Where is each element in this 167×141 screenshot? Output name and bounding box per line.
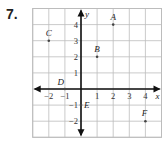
y-tick-label: −2 — [69, 116, 78, 126]
y-tick-label: −1 — [69, 100, 78, 110]
x-tick-label: 2 — [111, 91, 115, 101]
point-c — [48, 39, 51, 42]
y-tick-label: 1 — [74, 68, 78, 78]
x-tick-label: 3 — [127, 91, 131, 101]
point-label-d: D — [56, 77, 64, 87]
point-label-b: B — [94, 44, 100, 54]
y-axis-label: y — [84, 9, 89, 19]
point-label-f: F — [141, 108, 148, 118]
point-f — [144, 120, 147, 123]
point-e — [80, 104, 83, 107]
coordinate-grid: xy−2−112344321−1−2ABCDEF — [0, 0, 167, 141]
x-tick-label: −2 — [44, 91, 53, 101]
x-tick-label: 1 — [95, 91, 99, 101]
point-a — [112, 23, 115, 26]
point-label-e: E — [83, 100, 90, 110]
x-tick-label: 4 — [143, 91, 148, 101]
y-tick-label: 3 — [74, 36, 78, 46]
point-label-a: A — [109, 12, 116, 22]
point-label-c: C — [46, 28, 53, 38]
point-b — [96, 56, 99, 59]
point-d — [64, 88, 67, 91]
x-axis-label: x — [155, 91, 160, 101]
y-tick-label: 2 — [74, 52, 78, 62]
